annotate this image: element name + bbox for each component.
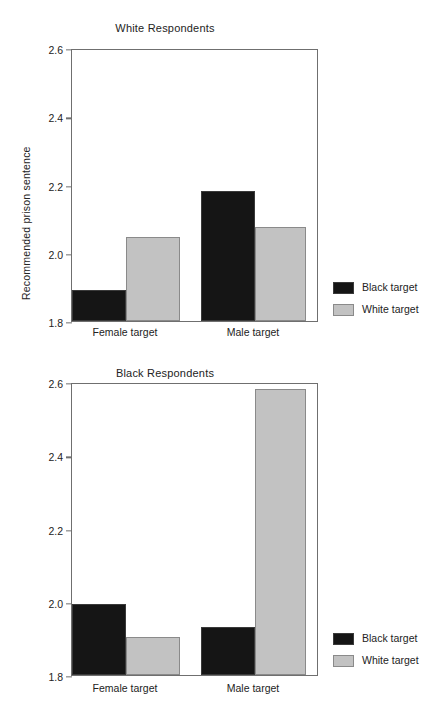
y-tick-mark-2.6 [66,49,72,50]
plot-area: 2.6 2.4 2.2 2.0 1.8 [71,49,318,322]
legend-label-white-target: White target [362,304,419,315]
legend-swatch-black-icon [333,633,354,645]
x-axis-label-female-target: Female target [93,682,158,694]
legend-swatch-white-icon [333,655,354,667]
x-axis-label-female-target: Female target [93,326,158,338]
y-tick-mark-2.4 [66,118,72,119]
y-tick-mark-2.2 [66,530,72,531]
y-tick-mark-2.0 [66,254,72,255]
y-tick-mark-2.6 [66,383,72,384]
y-axis-label: Recommended prison sentence [20,146,32,300]
chart-title: White Respondents [0,22,330,34]
legend-item-black-target: Black target [333,632,419,645]
y-tick-mark-2.4 [66,457,72,458]
chart-panel-white-respondents: White Respondents Recommended prison sen… [0,0,438,355]
x-axis-label-male-target: Male target [227,682,280,694]
bar-male-white-target [255,227,306,321]
bar-male-white-target [255,389,306,675]
plot-area: 2.6 2.4 2.2 2.0 1.8 [71,383,318,676]
legend: Black target White target [333,281,419,325]
legend-swatch-black-icon [333,282,354,294]
legend-item-black-target: Black target [333,281,419,294]
legend-label-black-target: Black target [362,633,417,644]
legend-item-white-target: White target [333,303,419,316]
legend-item-white-target: White target [333,654,419,667]
legend: Black target White target [333,632,419,676]
y-tick-mark-1.8 [66,322,72,323]
chart-panel-black-respondents: Black Respondents Recommended prison sen… [0,355,438,718]
bar-female-black-target [72,604,126,675]
x-axis-label-male-target: Male target [227,326,280,338]
legend-label-black-target: Black target [362,282,417,293]
y-tick-mark-2.2 [66,186,72,187]
y-tick-mark-1.8 [66,676,72,677]
bar-female-black-target [72,290,126,321]
legend-label-white-target: White target [362,655,419,666]
bar-male-black-target [201,191,255,321]
legend-swatch-white-icon [333,304,354,316]
bar-female-white-target [126,637,180,676]
bar-male-black-target [201,627,255,675]
bar-female-white-target [126,237,180,321]
